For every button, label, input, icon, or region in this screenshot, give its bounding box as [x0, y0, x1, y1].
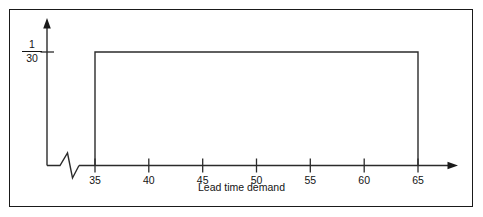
y-axis-label-numerator: 1 [19, 39, 45, 50]
x-axis-title: Lead time demand [0, 181, 483, 193]
uniform-density-curve [95, 52, 418, 166]
y-axis-label-fraction: 1 30 [19, 39, 45, 64]
y-axis-arrow-icon [43, 18, 51, 29]
figure-root: 1 30 35 40 45 50 55 60 65 Lead time dema… [0, 0, 483, 217]
x-axis-break-icon [47, 153, 79, 178]
x-axis-arrow-icon [448, 162, 459, 170]
y-axis-label-denominator: 30 [19, 53, 45, 64]
